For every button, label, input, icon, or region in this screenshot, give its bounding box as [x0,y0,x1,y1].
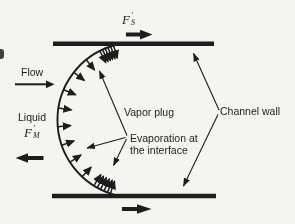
evaporation-pointer-bottom-icon [114,139,127,166]
fm-symbol-base: F [24,125,32,140]
evaporation-arrow-icon [82,167,91,177]
evaporation-arrows [58,46,117,194]
evaporation-arrow-icon [59,108,72,110]
evaporation-arrow-icon [86,60,94,70]
evaporation-label-line1: Evaporation at [130,132,198,144]
evaporation-arrow-icon [74,72,84,80]
fm-symbol: F′M [24,126,40,140]
fm-symbol-subscript: M [33,132,40,140]
channel-wall-label: Channel wall [220,105,280,117]
evaporation-arrow-icon [58,126,71,127]
flow-arrow-icon [15,80,55,88]
fs-symbol-base: F [122,12,130,27]
evaporation-arrow-icon [62,141,74,145]
scan-artifact-mark [0,49,4,59]
evaporation-pointer-middle-icon [87,138,126,149]
liquid-label: Liquid [18,111,46,123]
evaporation-pointer-top-icon [100,71,128,136]
evaporation-label-line2: the interface [130,144,198,156]
bottom-wall-flow-arrow-icon [122,204,152,214]
flow-label: Flow [21,66,43,78]
evaporation-label: Evaporation at the interface [130,132,198,156]
channel-wall-pointer-top-icon [194,54,220,111]
fs-symbol-subscript: S [131,19,135,27]
fs-symbol: F′S [122,13,135,27]
vapor-plug-label: Vapor plug [124,106,174,118]
fm-force-arrow-icon [16,153,44,163]
fs-force-arrow-icon [126,30,153,40]
figure-vapor-plug-diagram: Flow Liquid Vapor plug Evaporation at th… [0,0,295,224]
evaporation-arrow-icon [64,90,76,95]
evaporation-arrow-icon [100,51,106,63]
evaporation-arrow-icon [70,155,81,162]
